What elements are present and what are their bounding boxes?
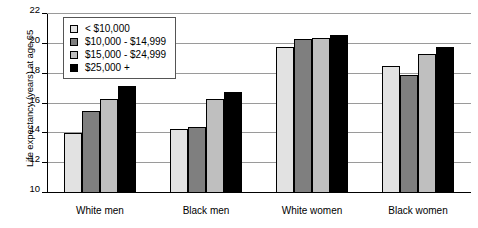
- y-tick-label: 16: [29, 93, 40, 104]
- legend-swatch-icon: [70, 25, 78, 33]
- bar-group: White women: [259, 14, 365, 193]
- bar: [294, 39, 312, 193]
- legend: < $10,000$10,000 - $14,999$15,000 - $24,…: [63, 17, 176, 79]
- legend-item: < $10,000: [70, 22, 166, 35]
- y-tick-label: 10: [29, 183, 40, 194]
- bar: [224, 92, 242, 193]
- legend-item: $25,000 +: [70, 61, 166, 74]
- bar: [82, 111, 100, 193]
- bar: [118, 86, 136, 193]
- legend-label: $25,000 +: [85, 63, 130, 73]
- bar: [170, 129, 188, 193]
- bar: [206, 99, 224, 193]
- y-tick-label: 12: [29, 153, 40, 164]
- bar: [100, 99, 118, 193]
- legend-label: $15,000 - $24,999: [85, 50, 166, 60]
- legend-swatch-icon: [70, 64, 78, 72]
- bar: [188, 127, 206, 193]
- x-axis-category-label: Black women: [348, 205, 478, 216]
- legend-item: $15,000 - $24,999: [70, 48, 166, 61]
- bar: [400, 75, 418, 193]
- bar-group: Black women: [365, 14, 471, 193]
- legend-label: < $10,000: [85, 24, 130, 34]
- legend-swatch-icon: [70, 51, 78, 59]
- bar: [382, 66, 400, 193]
- y-tick-label: 22: [29, 4, 40, 15]
- legend-label: $10,000 - $14,999: [85, 37, 166, 47]
- y-tick-label: 20: [29, 33, 40, 44]
- bar: [276, 47, 294, 193]
- legend-swatch-icon: [70, 38, 78, 46]
- y-tick-label: 14: [29, 123, 40, 134]
- legend-item: $10,000 - $14,999: [70, 35, 166, 48]
- bar: [418, 54, 436, 193]
- bar: [64, 133, 82, 193]
- bar-chart: Life expectancy (years) at age 65 101214…: [0, 0, 478, 228]
- bar: [312, 38, 330, 193]
- bar: [330, 35, 348, 193]
- y-tick-label: 18: [29, 63, 40, 74]
- bar: [436, 47, 454, 193]
